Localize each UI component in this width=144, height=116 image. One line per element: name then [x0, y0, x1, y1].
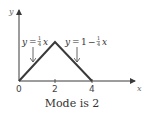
- triangular-density-diagram: y x 0 2 4 y = 1 4 x y = 1 − 1 4 x Mode i…: [0, 0, 144, 116]
- left-equation-label: y = 1 4 x: [21, 35, 48, 47]
- density-curve: [19, 42, 92, 81]
- left-eq-var: x: [43, 37, 48, 47]
- left-eq-lhs: y: [21, 37, 28, 47]
- left-eq-frac-den: 4: [38, 41, 41, 47]
- right-eq-var: x: [102, 37, 107, 47]
- right-eq-lhs: y: [64, 37, 71, 47]
- figure-caption: Mode is 2: [0, 97, 144, 111]
- right-eq-minus: −: [88, 37, 96, 47]
- right-eq-const: 1: [81, 37, 87, 47]
- y-axis-label: y: [8, 7, 14, 16]
- right-eq-equals: =: [72, 37, 80, 47]
- x-tick-label-4: 4: [89, 84, 95, 94]
- x-tick-label-0: 0: [16, 84, 22, 94]
- x-tick-label-2: 2: [52, 84, 58, 94]
- left-eq-equals: =: [29, 37, 37, 47]
- x-axis-label: x: [137, 84, 142, 93]
- right-eq-frac-den: 4: [97, 41, 100, 47]
- right-equation-label: y = 1 − 1 4 x: [64, 35, 107, 47]
